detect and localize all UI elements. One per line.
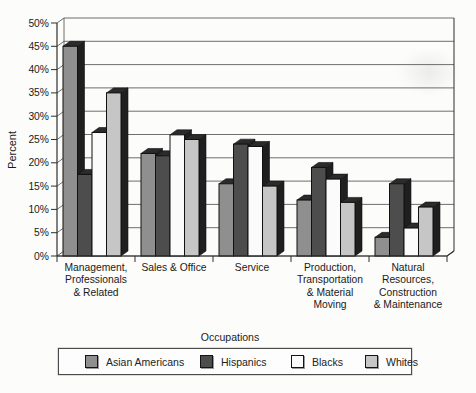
bar-whites-g3 (341, 197, 363, 256)
svg-text:Production,Transportation& Mat: Production,Transportation& MaterialMovin… (297, 262, 363, 310)
y-axis-title: Percent (6, 131, 18, 169)
svg-text:40%: 40% (28, 64, 49, 75)
legend-label: Hispanics (221, 356, 267, 368)
legend-swatch-hispanics (200, 355, 213, 368)
legend-item-blacks: Blacks (291, 349, 343, 374)
legend-label: Asian Americans (106, 356, 184, 368)
bar-whites-g2 (263, 181, 285, 256)
legend-swatch-asian-americans (85, 355, 98, 368)
svg-text:5%: 5% (34, 227, 49, 238)
legend-item-hispanics: Hispanics (200, 349, 267, 374)
occupations-bar-chart: 0%5%10%15%20%25%30%35%40%45%50%Managemen… (0, 0, 476, 330)
bar-chart-figure: 0%5%10%15%20%25%30%35%40%45%50%Managemen… (0, 0, 476, 393)
legend-label: Blacks (312, 356, 343, 368)
legend: Asian Americans Hispanics Blacks Whites (58, 348, 412, 375)
y-axis-ticks (51, 23, 57, 256)
svg-text:NaturalResources,Construction&: NaturalResources,Construction& Maintenan… (374, 262, 443, 310)
svg-text:25%: 25% (28, 134, 49, 145)
bars (63, 41, 440, 256)
svg-text:50%: 50% (28, 18, 49, 29)
legend-item-whites: Whites (365, 349, 418, 374)
svg-text:Management,Professionals& Rela: Management,Professionals& Related (65, 262, 128, 298)
svg-text:0%: 0% (34, 251, 49, 262)
y-axis-tick-labels: 0%5%10%15%20%25%30%35%40%45%50% (28, 18, 49, 262)
legend-swatch-blacks (291, 355, 304, 368)
bar-whites-g0 (107, 88, 129, 256)
legend-label: Whites (386, 356, 418, 368)
svg-text:45%: 45% (28, 41, 49, 52)
legend-swatch-whites (365, 355, 378, 368)
svg-text:15%: 15% (28, 181, 49, 192)
bar-whites-g1 (185, 135, 207, 257)
legend-item-asian-americans: Asian Americans (85, 349, 184, 374)
svg-text:30%: 30% (28, 111, 49, 122)
svg-text:10%: 10% (28, 204, 49, 215)
svg-text:35%: 35% (28, 87, 49, 98)
svg-text:Sales & Office: Sales & Office (141, 262, 206, 273)
x-axis-title: Occupations (0, 331, 460, 343)
category-labels: Management,Professionals& RelatedSales &… (65, 262, 443, 310)
bar-whites-g4 (419, 202, 441, 256)
svg-text:20%: 20% (28, 157, 49, 168)
svg-text:Percent: Percent (6, 131, 18, 169)
svg-text:Service: Service (235, 262, 270, 273)
